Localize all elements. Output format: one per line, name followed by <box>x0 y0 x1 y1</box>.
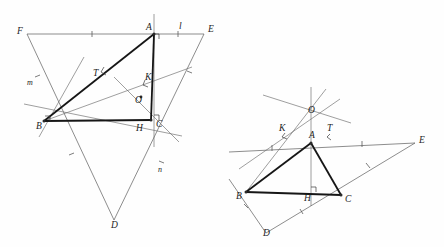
left-right-angle-T <box>327 134 331 140</box>
left-label-A: A <box>308 130 315 140</box>
right-label-O: O <box>135 95 142 105</box>
right-tick-DF <box>69 153 74 155</box>
right-label-B: B <box>36 121 42 131</box>
left-tick-DB <box>300 209 303 214</box>
right-label-K: K <box>144 72 152 82</box>
right-tick-ED <box>159 161 164 163</box>
left-tick-ED <box>366 163 370 168</box>
left-label-K: K <box>278 123 286 133</box>
right-label-H: H <box>135 123 144 133</box>
right-label-A: A <box>145 22 152 32</box>
geometry-figure-root: D B C H E A T K O <box>0 0 444 247</box>
left-label-T: T <box>327 123 333 133</box>
left-construction: D B C H E A T K O <box>229 87 425 238</box>
right-line-through-B <box>39 57 84 137</box>
left-outer-edge-DB <box>229 179 266 233</box>
right-point-C <box>150 119 153 122</box>
left-label-O: O <box>308 105 315 115</box>
left-point-B <box>245 191 248 194</box>
right-label-D: D <box>110 220 118 230</box>
right-point-A <box>153 33 156 36</box>
left-right-angle-H <box>311 187 316 192</box>
right-triangle-AB <box>44 34 154 121</box>
left-outer-edge-ED <box>266 143 415 233</box>
right-triangle-CA <box>151 34 154 120</box>
left-point-C <box>340 194 343 197</box>
right-construction: D C B H O K T A E <box>16 14 214 230</box>
left-label-H: H <box>303 193 312 203</box>
geometry-figure-canvas: D B C H E A T K O <box>0 0 444 247</box>
right-right-angle-T <box>101 67 106 75</box>
left-label-D: D <box>262 228 270 238</box>
right-label-E: E <box>207 24 214 34</box>
left-triangle-CB <box>246 192 341 195</box>
right-triangle-CB <box>44 120 151 121</box>
right-label-T: T <box>93 68 99 78</box>
left-label-C: C <box>345 194 352 204</box>
right-label-C: C <box>156 119 163 129</box>
left-point-A <box>310 142 313 145</box>
left-outer-edge-EB <box>229 143 415 152</box>
left-label-B: B <box>236 191 242 201</box>
right-label-line-l: l <box>179 21 182 31</box>
right-label-line-n: n <box>158 165 162 174</box>
right-point-B <box>43 120 46 123</box>
right-line-BK <box>44 67 192 121</box>
right-tick-ED2 <box>187 71 192 73</box>
left-label-E: E <box>418 135 425 145</box>
right-label-line-m: m <box>27 78 33 87</box>
left-cevian-T <box>263 95 351 123</box>
right-label-F: F <box>16 26 23 36</box>
right-tick-DF2 <box>35 75 40 77</box>
